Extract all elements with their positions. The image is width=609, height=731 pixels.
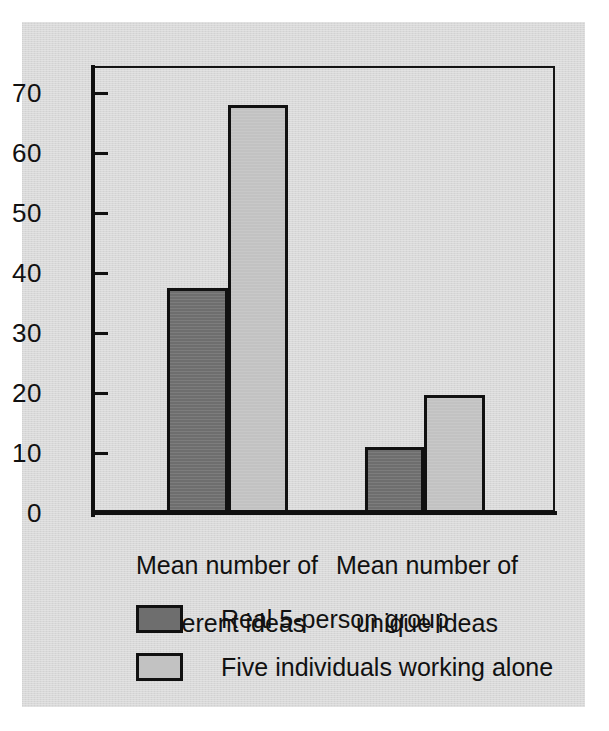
legend-label-real-5-person-group: Real 5-person group xyxy=(221,605,449,633)
plot-frame xyxy=(92,66,555,513)
figure-panel: 70 60 50 40 30 20 10 0 Mean number of di… xyxy=(22,22,585,707)
y-axis-label-0: 0 xyxy=(27,500,42,526)
legend-item-five-individuals-working-alone[interactable]: Five individuals working alone xyxy=(136,643,566,691)
light-swatch-icon xyxy=(136,653,183,681)
y-axis-tick xyxy=(95,212,108,215)
y-axis-tick xyxy=(95,272,108,275)
category-1-line-1: Mean number of xyxy=(112,551,342,580)
y-axis-tick xyxy=(95,152,108,155)
category-2-line-1: Mean number of xyxy=(312,551,542,580)
bar-group2-five-individuals-working-alone[interactable] xyxy=(424,395,485,513)
legend-label-five-individuals-working-alone: Five individuals working alone xyxy=(221,653,553,681)
y-axis-tick xyxy=(95,452,108,455)
y-axis-label-40: 40 xyxy=(12,260,42,286)
y-axis-label-50: 50 xyxy=(12,200,42,226)
y-axis-label-70: 70 xyxy=(12,80,42,106)
y-axis-label-20: 20 xyxy=(12,380,42,406)
y-axis-tick xyxy=(95,332,108,335)
legend-item-real-5-person-group[interactable]: Real 5-person group xyxy=(136,595,566,643)
x-axis-line xyxy=(91,511,557,515)
bar-group1-real-5-person-group[interactable] xyxy=(167,288,228,513)
bar-group2-real-5-person-group[interactable] xyxy=(365,447,424,513)
y-axis-line xyxy=(91,65,95,517)
y-axis-label-30: 30 xyxy=(12,320,42,346)
dark-swatch-icon xyxy=(136,605,183,633)
y-axis-label-10: 10 xyxy=(12,440,42,466)
y-axis-tick xyxy=(95,92,108,95)
chart-legend: Real 5-person group Five individuals wor… xyxy=(136,595,566,691)
bar-group1-five-individuals-working-alone[interactable] xyxy=(228,105,288,513)
y-axis-label-60: 60 xyxy=(12,140,42,166)
y-axis-tick xyxy=(95,392,108,395)
